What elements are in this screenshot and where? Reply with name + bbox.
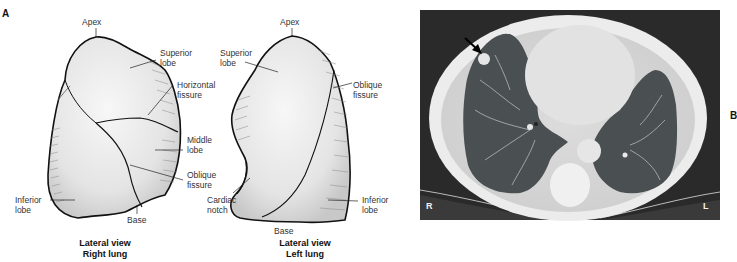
right-base-label: Base bbox=[127, 215, 146, 225]
ct-aorta bbox=[577, 139, 601, 163]
left-base-label: Base bbox=[274, 226, 293, 236]
ct-hilar-vessel bbox=[527, 124, 533, 130]
ct-marker-right: R bbox=[426, 201, 433, 211]
ct-bronchus bbox=[534, 122, 538, 126]
left-apex-label: Apex bbox=[280, 17, 299, 27]
left-cardiac-notch-label: Cardiac notch bbox=[207, 195, 236, 215]
ct-marker-left: L bbox=[703, 201, 709, 211]
right-lung-caption: Lateral view Right lung bbox=[70, 238, 140, 260]
right-oblique-fissure-label: Oblique fissure bbox=[187, 170, 216, 190]
left-lung-caption: Lateral view Left lung bbox=[270, 238, 340, 260]
right-inferior-lobe-label: Inferior lobe bbox=[15, 195, 41, 215]
ct-nodule bbox=[478, 53, 490, 65]
ct-scan-image bbox=[420, 10, 720, 221]
ct-spine bbox=[550, 163, 590, 207]
left-superior-lobe-label: Superior lobe bbox=[220, 48, 252, 68]
right-superior-lobe-label: Superior lobe bbox=[160, 48, 192, 68]
ct-left-vessel bbox=[623, 153, 628, 158]
right-horizontal-fissure-label: Horizontal fissure bbox=[177, 80, 215, 100]
ct-heart bbox=[525, 25, 635, 125]
left-oblique-fissure-label: Oblique fissure bbox=[353, 80, 382, 100]
right-apex-label: Apex bbox=[82, 17, 101, 27]
lung-illustrations bbox=[0, 0, 737, 262]
left-inferior-lobe-label: Inferior lobe bbox=[362, 195, 388, 215]
right-middle-lobe-label: Middle lobe bbox=[187, 135, 212, 155]
